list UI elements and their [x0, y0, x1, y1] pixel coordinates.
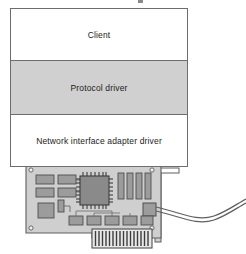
- network-driver-stack-diagram: Client Protocol driver Network interface…: [0, 0, 246, 254]
- stack-layer-client-label: Client: [88, 30, 111, 40]
- port-connector: [143, 203, 156, 216]
- stack-layer-protocol-driver-label: Protocol driver: [70, 83, 127, 93]
- stack-layer-nic-driver: Network interface adapter driver: [11, 115, 187, 166]
- stack-layer-nic-driver-label: Network interface adapter driver: [36, 136, 162, 146]
- main-chip: [76, 172, 113, 209]
- edge-connector: [92, 229, 152, 248]
- stack-layer-protocol-driver: Protocol driver: [11, 61, 187, 115]
- network-cable: [156, 199, 246, 222]
- stack-layer-client: Client: [11, 9, 187, 61]
- protocol-stack: Client Protocol driver Network interface…: [10, 8, 188, 167]
